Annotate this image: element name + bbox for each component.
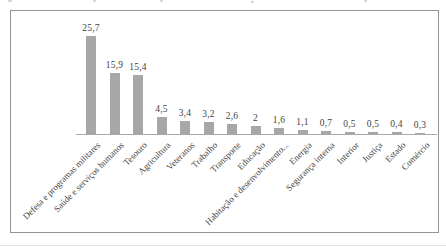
value-label: 0,5 bbox=[367, 119, 379, 129]
bar bbox=[86, 36, 96, 134]
bar bbox=[298, 130, 308, 134]
bar bbox=[180, 121, 190, 134]
scan-shadow-line bbox=[0, 245, 446, 246]
value-label: 3,2 bbox=[202, 109, 214, 119]
bar-chart: 25,7Defesa e programas militares15,9Saúd… bbox=[11, 11, 438, 232]
value-label: 0,3 bbox=[414, 120, 426, 130]
bar bbox=[227, 124, 237, 134]
scanned-page: 25,7Defesa e programas militares15,9Saúd… bbox=[0, 0, 446, 251]
value-label: 1,1 bbox=[296, 117, 308, 127]
value-label: 0,4 bbox=[390, 119, 402, 129]
x-axis-line bbox=[76, 134, 437, 135]
bar bbox=[157, 117, 167, 134]
value-label: 0,7 bbox=[320, 118, 332, 128]
value-label: 2,6 bbox=[226, 111, 238, 121]
value-label: 2 bbox=[253, 113, 258, 123]
bar bbox=[415, 133, 425, 134]
value-label: 1,6 bbox=[273, 115, 285, 125]
value-label: 4,5 bbox=[155, 104, 167, 114]
bar bbox=[133, 75, 143, 134]
scan-artifact bbox=[93, 0, 96, 2]
scan-artifact bbox=[160, 0, 163, 2]
category-label: Interior bbox=[334, 140, 360, 166]
scan-artifact bbox=[251, 1, 254, 3]
value-label: 0,5 bbox=[343, 119, 355, 129]
bar bbox=[274, 128, 284, 134]
bar bbox=[321, 131, 331, 134]
value-label: 3,4 bbox=[179, 108, 191, 118]
value-label: 25,7 bbox=[82, 23, 99, 33]
category-label: Justiça bbox=[360, 140, 384, 164]
bar bbox=[110, 73, 120, 134]
bar bbox=[392, 132, 402, 134]
value-label: 15,9 bbox=[106, 60, 123, 70]
chart-frame: 25,7Defesa e programas militares15,9Saúd… bbox=[10, 10, 439, 233]
bar bbox=[251, 126, 261, 134]
scan-artifact bbox=[364, 0, 367, 2]
bar bbox=[345, 132, 355, 134]
bar bbox=[204, 122, 214, 134]
scan-artifact bbox=[8, 0, 12, 2]
bar bbox=[368, 132, 378, 134]
value-label: 15,4 bbox=[129, 62, 146, 72]
